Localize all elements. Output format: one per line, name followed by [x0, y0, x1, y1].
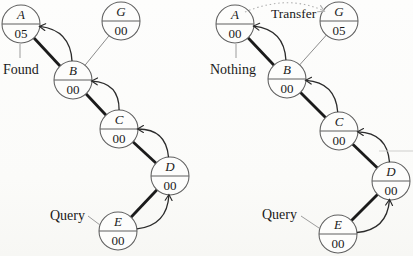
node-value-D-left: 00 [164, 178, 177, 193]
label-query-left: Query [50, 208, 85, 223]
label-nothing-right: Nothing [210, 62, 256, 77]
hop-arrow-B-A-right [254, 26, 286, 60]
label-found-left: Found [3, 62, 39, 77]
node-label-C-left: C [115, 112, 124, 127]
node-value-G-right: 05 [333, 23, 346, 38]
node-label-D-right: D [385, 164, 396, 179]
node-value-G-left: 00 [115, 23, 128, 38]
node-label-D-left: D [164, 159, 175, 174]
node-label-B-left: B [69, 63, 77, 78]
diagram-left: A05G00B00C00D00E00FoundQuery [2, 2, 189, 250]
node-value-E-left: 00 [112, 233, 125, 248]
figure: A05G00B00C00D00E00FoundQueryA00G05B00C00… [0, 0, 413, 256]
node-label-E-left: E [113, 214, 122, 229]
diagram-right: A00G05B00C00D00E00NothingQueryTransfer [210, 2, 410, 253]
label-query-right: Query [262, 207, 297, 222]
leader-line-query-left [88, 216, 100, 225]
node-label-E-right: E [333, 217, 342, 232]
label-transfer-right: Transfer [271, 6, 317, 21]
leader-line-query-right [301, 216, 319, 228]
node-label-B-right: B [283, 62, 291, 77]
node-label-A-left: A [16, 7, 25, 22]
node-value-D-right: 00 [385, 183, 398, 198]
node-value-A-right: 00 [229, 26, 242, 41]
hop-arrow-D-C-left [138, 129, 169, 157]
hop-arrow-D-C-right [358, 132, 390, 162]
node-label-A-right: A [230, 7, 239, 22]
hop-arrow-E-D-left [137, 195, 169, 229]
node-value-B-right: 00 [281, 81, 294, 96]
overlay-diagram-svg: A05G00B00C00D00E00FoundQueryA00G05B00C00… [0, 0, 413, 256]
node-value-A-left: 05 [15, 26, 28, 41]
hop-arrow-B-A-left [40, 26, 72, 61]
node-value-C-right: 00 [333, 133, 346, 148]
node-value-C-left: 00 [113, 131, 126, 146]
node-label-G-left: G [116, 4, 126, 19]
node-value-B-left: 00 [67, 82, 80, 97]
hop-arrow-C-B-right [306, 80, 338, 112]
node-value-E-right: 00 [332, 236, 345, 251]
hop-arrow-E-D-right [357, 200, 390, 233]
node-label-G-right: G [334, 4, 344, 19]
node-label-C-right: C [335, 114, 344, 129]
